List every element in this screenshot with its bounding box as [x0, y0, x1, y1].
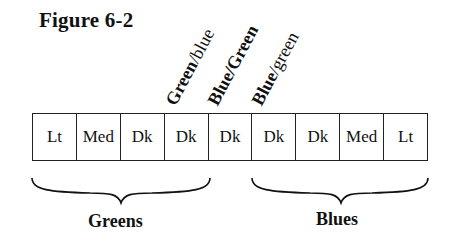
cell-blues-dark: Dk — [296, 114, 340, 160]
group-label-blues: Blues — [316, 209, 358, 230]
cell-greens-light: Lt — [33, 114, 77, 160]
figure-title: Figure 6-2 — [39, 8, 133, 33]
greens-brace-icon — [30, 176, 212, 206]
cell-blue-green-lower-dark: Dk — [252, 114, 296, 160]
cell-green-blue-dark: Dk — [165, 114, 209, 160]
blues-brace-icon — [250, 176, 430, 206]
cell-blues-light: Lt — [384, 114, 427, 160]
cell-blues-medium: Med — [340, 114, 384, 160]
color-scale-row: Lt Med Dk Dk Dk Dk Dk Med Lt — [32, 113, 428, 161]
cell-blue-green-dark: Dk — [209, 114, 253, 160]
cell-greens-medium: Med — [77, 114, 121, 160]
cell-greens-dark: Dk — [121, 114, 165, 160]
group-label-greens: Greens — [88, 211, 143, 232]
